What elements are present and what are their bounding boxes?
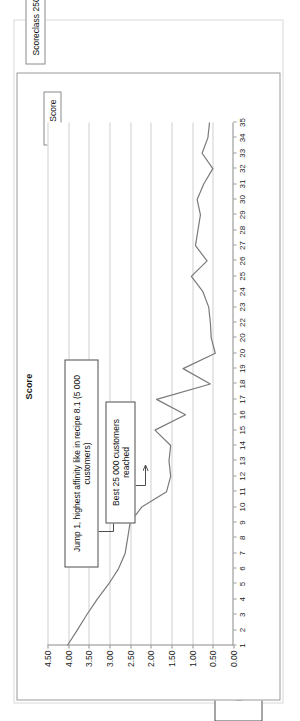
- x-tick-label: 10: [237, 502, 246, 511]
- x-tick-label: 2: [237, 627, 246, 631]
- y-tick-label: 4.00: [63, 650, 73, 667]
- y-tick-label: 3.00: [104, 650, 114, 667]
- x-tick-label: 4: [237, 597, 246, 601]
- x-tick-label: 3: [237, 612, 246, 616]
- x-tick-label: 27: [237, 241, 246, 250]
- x-tick-label: 5: [237, 581, 246, 585]
- x-tick-label: 25: [237, 271, 246, 280]
- y-axis-line: [47, 644, 233, 645]
- x-tick-label: 6: [237, 566, 246, 570]
- x-tick-label: 20: [237, 333, 246, 342]
- x-tick-label: 35: [237, 118, 246, 127]
- x-tick-label: 33: [237, 148, 246, 157]
- x-tick-label: 24: [237, 287, 246, 296]
- x-tick-label: 11: [237, 487, 246, 495]
- y-tick-label: 4.50: [42, 650, 52, 667]
- x-tick-label: 7: [237, 550, 246, 554]
- annotation-best-text: Best 25 000 customers reached: [110, 406, 130, 518]
- x-axis-line: [232, 122, 233, 645]
- x-tick-label: 32: [237, 164, 246, 173]
- x-tick-label: 31: [237, 179, 246, 188]
- x-tick-label: 29: [237, 210, 246, 219]
- chart-caption: Scoreclass 2500 each,descending score: [25, 0, 45, 64]
- x-tick-label: 8: [237, 535, 246, 539]
- x-tick-label: 19: [237, 364, 246, 373]
- y-tick-label: 1.00: [187, 650, 197, 667]
- y-tick-label: 3.50: [83, 650, 93, 667]
- chart-card: Score Score 4.504.003.503.002.502.001.50…: [16, 72, 280, 700]
- legend-label-score: Score: [47, 99, 57, 121]
- annotation-jump-text: Jump 1, highest affinity like in recipe …: [71, 364, 91, 562]
- chart-title: Score: [23, 73, 33, 699]
- y-tick-label: 2.00: [145, 650, 155, 667]
- y-tick-label: 2.50: [125, 650, 135, 667]
- annotation-jump: Jump 1, highest affinity like in recipe …: [64, 359, 98, 567]
- x-tick-label: 20: [237, 348, 246, 357]
- x-tick-label: 34: [237, 133, 246, 142]
- x-tick-label: 16: [237, 410, 246, 419]
- x-tick-label: 17: [237, 394, 246, 403]
- x-tick-label: 30: [237, 194, 246, 203]
- x-tick-label: 26: [237, 256, 246, 265]
- x-tick-label: 15: [237, 425, 246, 434]
- x-tick-label: 12: [237, 471, 246, 480]
- x-tick-label: 22: [237, 318, 246, 327]
- x-tick-label: 23: [237, 302, 246, 311]
- annotation-best: Best 25 000 customers reached: [105, 401, 135, 523]
- y-tick-label: 0.50: [207, 650, 217, 667]
- x-tick-label: 9: [237, 520, 246, 524]
- x-tick-label: 28: [237, 225, 246, 234]
- y-tick-label: 1.50: [166, 650, 176, 667]
- chart-caption-text: Scoreclass 2500 each,descending score: [30, 0, 40, 55]
- x-tick-label: 13: [237, 456, 246, 465]
- x-tick-label: 1: [237, 643, 246, 647]
- x-tick-label: 14: [237, 441, 246, 450]
- x-tick-label: 18: [237, 379, 246, 388]
- y-tick-label: 0.00: [228, 650, 238, 667]
